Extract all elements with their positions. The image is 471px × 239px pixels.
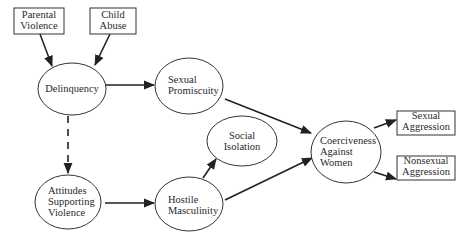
edge-child-abuse-to-delinquency bbox=[95, 34, 110, 65]
node-label-line: Abuse bbox=[100, 20, 127, 31]
node-label-line: Aggression bbox=[402, 166, 451, 177]
node-label-line: Hostile bbox=[168, 194, 199, 205]
edge-hostile-masculinity-to-social-isolation bbox=[203, 159, 216, 178]
node-hostile-masculinity: Hostile Masculinity bbox=[155, 177, 223, 231]
node-label-line: Nonsexual bbox=[404, 155, 449, 166]
node-label-line: Isolation bbox=[224, 141, 261, 152]
edge-parental-violence-to-delinquency bbox=[40, 34, 52, 66]
node-label-line: Supporting bbox=[48, 196, 95, 207]
node-parental-violence: Parental Violence bbox=[14, 8, 64, 34]
node-coerciveness-against-women: Coerciveness Against Women bbox=[311, 121, 381, 183]
node-label-line: Promiscuity bbox=[168, 85, 220, 96]
node-label-line: Women bbox=[320, 157, 353, 168]
node-social-isolation: Social Isolation bbox=[207, 116, 277, 166]
path-diagram: Parental Violence Child Abuse Delinquenc… bbox=[0, 0, 471, 239]
node-delinquency: Delinquency bbox=[38, 63, 106, 115]
node-attitudes-supporting-violence: Attitudes Supporting Violence bbox=[35, 175, 101, 229]
node-label-line: Sexual bbox=[168, 74, 197, 85]
node-label-line: Violence bbox=[20, 20, 58, 31]
node-label-line: Attitudes bbox=[48, 185, 87, 196]
node-sexual-aggression: Sexual Aggression bbox=[397, 110, 455, 135]
node-sexual-promiscuity: Sexual Promiscuity bbox=[155, 58, 223, 114]
node-label-line: Parental bbox=[22, 9, 56, 20]
node-child-abuse: Child Abuse bbox=[90, 8, 136, 34]
node-label-line: Against bbox=[320, 146, 353, 157]
node-label-line: Social bbox=[229, 130, 255, 141]
node-nonsexual-aggression: Nonsexual Aggression bbox=[397, 155, 455, 180]
edge-coerciveness-to-sexual-aggression bbox=[374, 120, 396, 128]
node-label-line: Masculinity bbox=[168, 205, 219, 216]
node-label-line: Delinquency bbox=[45, 83, 99, 94]
node-label-line: Violence bbox=[48, 207, 86, 218]
node-label-line: Child bbox=[101, 9, 125, 20]
node-label-line: Aggression bbox=[402, 121, 451, 132]
node-label-line: Sexual bbox=[412, 110, 441, 121]
node-label-line: Coerciveness bbox=[320, 135, 376, 146]
edge-coerciveness-to-nonsexual-aggression bbox=[374, 172, 396, 179]
